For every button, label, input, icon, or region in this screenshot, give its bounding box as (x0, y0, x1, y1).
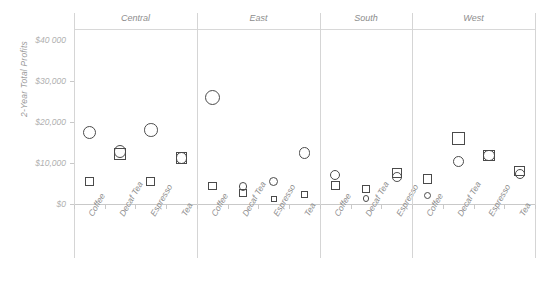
panel-divider (412, 13, 413, 258)
scatter-plot-panel-chart: 2-Year Total Profits $40 000$30,000$20,0… (0, 0, 548, 289)
data-marker-square (146, 177, 155, 186)
data-marker-circle (83, 126, 96, 139)
x-axis-tick-mark (197, 205, 198, 209)
panel-title-west: West (412, 13, 535, 23)
panel-title-east: East (197, 13, 320, 23)
x-axis-tick-mark (535, 205, 536, 209)
panel-divider (74, 13, 75, 258)
data-marker-circle (299, 147, 311, 159)
data-marker-square (423, 174, 433, 184)
panel-divider (535, 13, 536, 258)
data-marker-circle (453, 156, 464, 167)
x-axis-tick-mark (320, 205, 321, 209)
x-axis-tick-mark (166, 205, 167, 209)
data-marker-circle (330, 170, 340, 180)
data-marker-square (483, 150, 495, 162)
x-axis-category-label: Decaf Tea (117, 180, 145, 218)
panel-divider (197, 13, 198, 258)
data-marker-circle (363, 195, 370, 202)
data-marker-square (392, 168, 402, 178)
y-axis-tick-label: $0 (6, 199, 66, 209)
data-marker-circle (205, 90, 221, 106)
data-marker-square (271, 196, 277, 202)
x-axis-tick-mark (258, 205, 259, 209)
data-marker-square (114, 148, 126, 160)
data-marker-square (514, 166, 524, 176)
x-axis-category-label: Espresso (394, 182, 420, 218)
x-axis-tick-mark (504, 205, 505, 209)
x-axis-tick-mark (443, 205, 444, 209)
y-axis-tick-label: $30,000 (6, 76, 66, 86)
x-axis-tick-mark (228, 205, 229, 209)
x-axis-tick-mark (412, 205, 413, 209)
x-axis-tick-mark (105, 205, 106, 209)
x-axis-category-label: Espresso (148, 182, 174, 218)
data-marker-square (239, 189, 247, 197)
data-marker-square (85, 177, 94, 186)
panel-title-south: South (320, 13, 412, 23)
panel-title-central: Central (74, 13, 197, 23)
x-axis-category-label: Espresso (486, 182, 512, 218)
data-marker-circle (144, 123, 158, 137)
data-marker-square (331, 181, 340, 190)
data-marker-circle (424, 192, 431, 199)
panel-divider (320, 13, 321, 258)
x-axis-tick-mark (289, 205, 290, 209)
x-axis-tick-mark (351, 205, 352, 209)
x-axis-tick-mark (474, 205, 475, 209)
panel-header-rule (74, 29, 535, 30)
data-marker-square (176, 152, 188, 164)
data-marker-square (301, 191, 308, 198)
data-marker-square (452, 132, 465, 145)
x-axis-tick-mark (74, 205, 75, 209)
x-axis-tick-mark (381, 205, 382, 209)
y-axis-tick-label: $20,000 (6, 117, 66, 127)
data-marker-square (208, 182, 217, 191)
y-axis-tick-label: $40 000 (6, 35, 66, 45)
y-axis-tick-label: $10,000 (6, 158, 66, 168)
data-marker-square (362, 185, 370, 193)
x-axis-tick-mark (135, 205, 136, 209)
x-axis-category-label: Decaf Tea (455, 180, 483, 218)
data-marker-circle (269, 177, 278, 186)
